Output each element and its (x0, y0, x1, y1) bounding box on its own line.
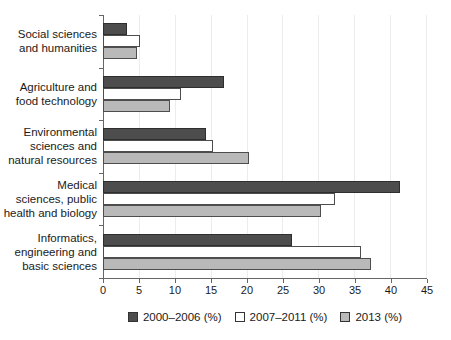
bar-2013 (103, 152, 249, 164)
x-axis-tick-label: 10 (169, 284, 181, 296)
bar-2000–2006 (103, 181, 400, 193)
category-label: Informatics, engineering and basic scien… (0, 231, 103, 273)
chart-rows: Social sciences and humanitiesAgricultur… (0, 15, 451, 278)
bar-2013 (103, 47, 137, 59)
chart-row: Social sciences and humanities (0, 15, 451, 68)
legend-item: 2013 (%) (340, 311, 402, 323)
legend-label: 2013 (%) (355, 311, 402, 323)
chart-row: Informatics, engineering and basic scien… (0, 225, 451, 278)
chart-row: Agriculture and food technology (0, 68, 451, 121)
category-label: Agriculture and food technology (0, 80, 103, 108)
bar-2000–2006 (103, 234, 292, 246)
x-axis: 051015202530354045 (103, 278, 427, 299)
bar-2013 (103, 205, 321, 217)
bar-2007–2011 (103, 246, 361, 258)
x-axis-tick (427, 279, 428, 283)
bars-cell (103, 68, 427, 121)
category-label: Medical sciences, public health and biol… (0, 178, 103, 220)
x-axis-tick-label: 35 (349, 284, 361, 296)
x-axis-tick-label: 25 (277, 284, 289, 296)
bar-2007–2011 (103, 35, 140, 47)
bar-chart-figure: Social sciences and humanitiesAgricultur… (0, 0, 451, 340)
x-axis-tick-label: 0 (100, 284, 106, 296)
legend-item: 2000–2006 (%) (128, 311, 222, 323)
bar-2013 (103, 100, 170, 112)
chart-legend: 2000–2006 (%)2007–2011 (%)2013 (%) (103, 311, 427, 323)
chart-row: Environmental sciences and natural resou… (0, 120, 451, 173)
bar-2000–2006 (103, 128, 206, 140)
x-axis-tick (319, 279, 320, 283)
x-axis-tick (391, 279, 392, 283)
x-axis-tick-label: 5 (136, 284, 142, 296)
bar-2007–2011 (103, 140, 213, 152)
bar-2000–2006 (103, 23, 127, 35)
chart-row: Medical sciences, public health and biol… (0, 173, 451, 226)
x-axis-tick (247, 279, 248, 283)
x-axis-tick-label: 20 (241, 284, 253, 296)
legend-label: 2007–2011 (%) (250, 311, 328, 323)
bars-cell (103, 120, 427, 173)
x-axis-tick (355, 279, 356, 283)
category-label: Environmental sciences and natural resou… (0, 125, 103, 167)
x-axis-tick (211, 279, 212, 283)
chart-body: Social sciences and humanitiesAgricultur… (0, 0, 451, 299)
bars-cell (103, 173, 427, 226)
bar-2007–2011 (103, 88, 181, 100)
legend-label: 2000–2006 (%) (143, 311, 222, 323)
x-axis-tick (139, 279, 140, 283)
x-axis-tick (283, 279, 284, 283)
x-axis-tick (175, 279, 176, 283)
legend-item: 2007–2011 (%) (235, 311, 328, 323)
bar-2007–2011 (103, 193, 335, 205)
category-label: Social sciences and humanities (0, 27, 103, 55)
x-axis-tick (103, 279, 104, 283)
bars-cell (103, 225, 427, 278)
legend-swatch-icon (340, 312, 350, 322)
x-axis-tick-label: 30 (313, 284, 325, 296)
x-axis-tick-label: 15 (205, 284, 217, 296)
legend-swatch-icon (235, 312, 245, 322)
legend-swatch-icon (128, 312, 138, 322)
bar-2000–2006 (103, 76, 224, 88)
x-axis-tick-label: 40 (385, 284, 397, 296)
bar-2013 (103, 258, 371, 270)
x-axis-tick-label: 45 (421, 284, 433, 296)
bars-cell (103, 15, 427, 68)
